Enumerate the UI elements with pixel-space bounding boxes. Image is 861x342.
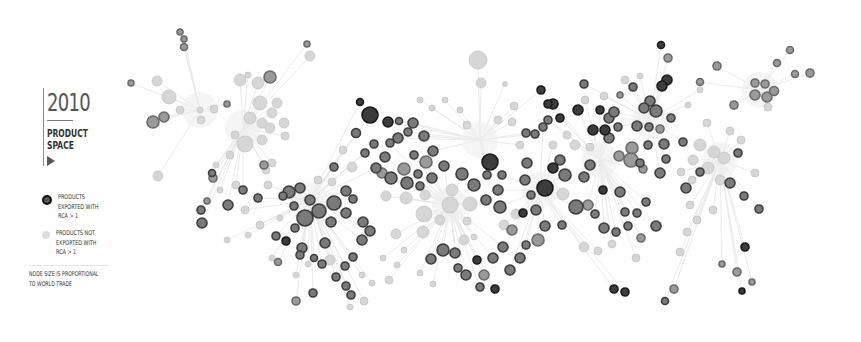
product-node-exported[interactable] bbox=[522, 158, 532, 168]
product-node-not-exported[interactable] bbox=[688, 155, 698, 165]
product-node-exported[interactable] bbox=[223, 200, 233, 210]
product-node-exported[interactable] bbox=[410, 151, 418, 159]
product-node-exported[interactable] bbox=[792, 71, 799, 78]
product-node-not-exported[interactable] bbox=[686, 201, 694, 209]
product-node-exported[interactable] bbox=[414, 170, 422, 178]
product-node-not-exported[interactable] bbox=[494, 116, 502, 124]
product-node-exported[interactable] bbox=[624, 222, 632, 230]
product-node-exported[interactable] bbox=[456, 168, 468, 180]
product-node-exported[interactable] bbox=[507, 225, 517, 235]
product-node-exported[interactable] bbox=[632, 121, 642, 131]
product-node-exported[interactable] bbox=[468, 179, 480, 191]
product-node-exported[interactable] bbox=[531, 205, 541, 215]
product-node-exported[interactable] bbox=[658, 42, 665, 49]
product-node-exported[interactable] bbox=[197, 206, 205, 214]
product-node-exported[interactable] bbox=[644, 141, 652, 149]
product-node-not-exported[interactable] bbox=[339, 146, 347, 154]
product-node-exported[interactable] bbox=[774, 60, 781, 67]
product-node-not-exported[interactable] bbox=[231, 131, 239, 139]
product-node-exported[interactable] bbox=[416, 182, 424, 190]
product-node-not-exported[interactable] bbox=[237, 136, 253, 152]
product-node-exported[interactable] bbox=[358, 217, 368, 227]
product-node-not-exported[interactable] bbox=[279, 118, 289, 128]
product-node-exported[interactable] bbox=[147, 116, 159, 128]
product-node-not-exported[interactable] bbox=[510, 102, 518, 110]
product-node-exported[interactable] bbox=[309, 289, 317, 297]
product-node-exported[interactable] bbox=[347, 291, 355, 299]
product-node-exported[interactable] bbox=[599, 223, 609, 233]
product-node-exported[interactable] bbox=[655, 168, 665, 178]
product-node-exported[interactable] bbox=[341, 208, 351, 218]
product-node-exported[interactable] bbox=[305, 195, 315, 205]
product-node-exported[interactable] bbox=[349, 253, 357, 261]
product-node-exported[interactable] bbox=[401, 177, 413, 189]
product-node-exported[interactable] bbox=[454, 264, 462, 272]
product-node-not-exported[interactable] bbox=[380, 255, 386, 261]
product-node-exported[interactable] bbox=[600, 125, 610, 135]
product-node-exported[interactable] bbox=[537, 86, 545, 94]
product-node-not-exported[interactable] bbox=[563, 131, 571, 139]
product-node-not-exported[interactable] bbox=[594, 247, 602, 255]
product-node-not-exported[interactable] bbox=[197, 107, 203, 113]
product-node-exported[interactable] bbox=[713, 62, 721, 70]
product-node-not-exported[interactable] bbox=[245, 72, 251, 78]
product-node-exported[interactable] bbox=[181, 44, 188, 51]
product-node-exported[interactable] bbox=[651, 221, 661, 231]
product-node-exported[interactable] bbox=[419, 131, 429, 141]
product-node-exported[interactable] bbox=[544, 100, 552, 108]
product-node-exported[interactable] bbox=[498, 171, 506, 179]
product-node-exported[interactable] bbox=[396, 118, 403, 125]
product-node-not-exported[interactable] bbox=[394, 262, 400, 268]
product-node-not-exported[interactable] bbox=[269, 255, 275, 261]
product-node-not-exported[interactable] bbox=[176, 106, 184, 114]
product-node-exported[interactable] bbox=[330, 163, 338, 171]
product-node-exported[interactable] bbox=[522, 241, 530, 249]
product-node-not-exported[interactable] bbox=[726, 127, 734, 135]
product-node-exported[interactable] bbox=[749, 279, 755, 285]
product-node-exported[interactable] bbox=[621, 208, 629, 216]
product-node-exported[interactable] bbox=[361, 149, 369, 157]
product-node-exported[interactable] bbox=[539, 123, 547, 131]
product-node-not-exported[interactable] bbox=[694, 139, 706, 151]
product-node-exported[interactable] bbox=[473, 256, 481, 264]
product-node-not-exported[interactable] bbox=[369, 280, 375, 286]
product-node-exported[interactable] bbox=[696, 168, 704, 176]
product-node-exported[interactable] bbox=[275, 259, 282, 266]
product-node-not-exported[interactable] bbox=[457, 107, 463, 113]
product-node-not-exported[interactable] bbox=[632, 254, 640, 262]
product-node-exported[interactable] bbox=[326, 217, 336, 227]
product-node-not-exported[interactable] bbox=[420, 190, 430, 200]
product-node-exported[interactable] bbox=[679, 138, 687, 146]
product-node-exported[interactable] bbox=[476, 283, 484, 291]
product-node-exported[interactable] bbox=[531, 130, 539, 138]
product-node-exported[interactable] bbox=[159, 112, 169, 122]
product-node-not-exported[interactable] bbox=[347, 304, 353, 310]
product-node-not-exported[interactable] bbox=[417, 270, 423, 276]
product-node-exported[interactable] bbox=[488, 253, 498, 263]
product-node-exported[interactable] bbox=[548, 163, 558, 173]
product-node-exported[interactable] bbox=[537, 180, 553, 196]
product-node-not-exported[interactable] bbox=[697, 87, 703, 93]
product-node-not-exported[interactable] bbox=[241, 206, 249, 214]
product-node-exported[interactable] bbox=[393, 133, 403, 143]
product-node-exported[interactable] bbox=[420, 156, 432, 168]
product-node-not-exported[interactable] bbox=[685, 102, 691, 108]
product-node-exported[interactable] bbox=[370, 140, 378, 148]
product-node-exported[interactable] bbox=[751, 79, 759, 87]
product-node-exported[interactable] bbox=[505, 265, 515, 275]
product-node-not-exported[interactable] bbox=[430, 281, 436, 287]
product-node-not-exported[interactable] bbox=[608, 240, 616, 248]
product-node-not-exported[interactable] bbox=[715, 175, 725, 185]
product-node-exported[interactable] bbox=[609, 107, 619, 117]
product-node-exported[interactable] bbox=[365, 226, 375, 236]
product-node-not-exported[interactable] bbox=[637, 73, 643, 79]
product-node-exported[interactable] bbox=[362, 107, 378, 123]
product-node-not-exported[interactable] bbox=[417, 97, 423, 103]
product-node-exported[interactable] bbox=[461, 270, 471, 280]
product-node-exported[interactable] bbox=[626, 142, 638, 154]
product-node-not-exported[interactable] bbox=[676, 248, 684, 256]
product-node-exported[interactable] bbox=[493, 185, 503, 195]
product-node-not-exported[interactable] bbox=[217, 187, 223, 193]
product-node-exported[interactable] bbox=[659, 139, 669, 149]
product-node-not-exported[interactable] bbox=[416, 206, 432, 222]
